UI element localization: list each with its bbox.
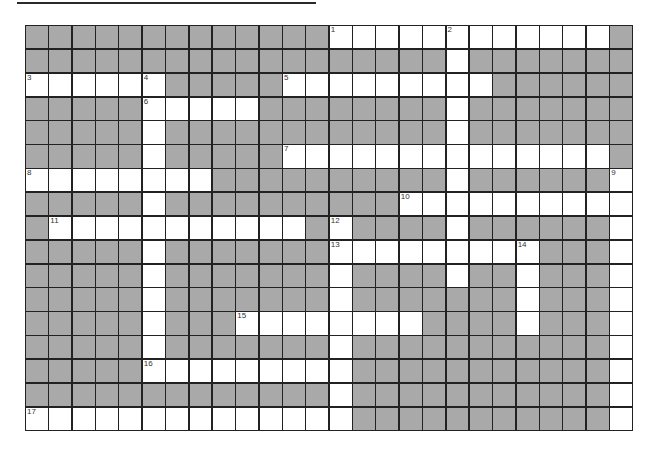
crossword-cell[interactable]: [96, 169, 118, 191]
crossword-cell[interactable]: [376, 26, 398, 48]
crossword-cell[interactable]: [306, 408, 328, 430]
crossword-cell[interactable]: [143, 193, 165, 215]
crossword-cell[interactable]: [190, 217, 212, 239]
crossword-cell[interactable]: [143, 265, 165, 287]
crossword-cell[interactable]: 10: [400, 193, 422, 215]
crossword-cell[interactable]: 13: [330, 241, 352, 263]
crossword-cell[interactable]: [400, 145, 422, 167]
crossword-cell[interactable]: [423, 74, 445, 96]
crossword-cell[interactable]: [610, 336, 632, 358]
crossword-cell[interactable]: [353, 312, 375, 334]
crossword-cell[interactable]: [143, 145, 165, 167]
crossword-cell[interactable]: [353, 241, 375, 263]
crossword-cell[interactable]: [400, 26, 422, 48]
crossword-cell[interactable]: [166, 169, 188, 191]
crossword-cell[interactable]: [143, 336, 165, 358]
crossword-cell[interactable]: [400, 74, 422, 96]
crossword-cell[interactable]: [470, 26, 492, 48]
crossword-cell[interactable]: 16: [143, 360, 165, 382]
crossword-cell[interactable]: [563, 145, 585, 167]
crossword-cell[interactable]: [283, 312, 305, 334]
crossword-cell[interactable]: [213, 360, 235, 382]
crossword-cell[interactable]: [447, 265, 469, 287]
crossword-cell[interactable]: [563, 26, 585, 48]
crossword-cell[interactable]: [610, 384, 632, 406]
crossword-cell[interactable]: [610, 312, 632, 334]
crossword-cell[interactable]: [610, 408, 632, 430]
crossword-cell[interactable]: [493, 241, 515, 263]
crossword-cell[interactable]: [610, 265, 632, 287]
crossword-cell[interactable]: [563, 193, 585, 215]
crossword-cell[interactable]: [166, 217, 188, 239]
crossword-cell[interactable]: [470, 193, 492, 215]
crossword-cell[interactable]: [236, 408, 258, 430]
crossword-cell[interactable]: [283, 217, 305, 239]
crossword-cell[interactable]: [517, 193, 539, 215]
crossword-cell[interactable]: [447, 193, 469, 215]
crossword-cell[interactable]: [213, 408, 235, 430]
crossword-cell[interactable]: [166, 360, 188, 382]
crossword-cell[interactable]: [376, 312, 398, 334]
crossword-cell[interactable]: [423, 193, 445, 215]
crossword-cell[interactable]: [610, 360, 632, 382]
crossword-cell[interactable]: [143, 169, 165, 191]
crossword-cell[interactable]: [330, 312, 352, 334]
crossword-cell[interactable]: [283, 360, 305, 382]
crossword-cell[interactable]: [447, 98, 469, 120]
crossword-cell[interactable]: [190, 98, 212, 120]
crossword-cell[interactable]: [330, 336, 352, 358]
crossword-cell[interactable]: 12: [330, 217, 352, 239]
crossword-cell[interactable]: [423, 26, 445, 48]
crossword-cell[interactable]: [236, 98, 258, 120]
crossword-cell[interactable]: [143, 217, 165, 239]
crossword-cell[interactable]: [260, 312, 282, 334]
crossword-cell[interactable]: [306, 145, 328, 167]
crossword-cell[interactable]: [143, 241, 165, 263]
crossword-cell[interactable]: [330, 288, 352, 310]
crossword-cell[interactable]: 6: [143, 98, 165, 120]
crossword-cell[interactable]: [587, 145, 609, 167]
crossword-cell[interactable]: 3: [26, 74, 48, 96]
crossword-cell[interactable]: 14: [517, 241, 539, 263]
crossword-cell[interactable]: [610, 241, 632, 263]
crossword-cell[interactable]: [330, 408, 352, 430]
crossword-cell[interactable]: [470, 145, 492, 167]
crossword-cell[interactable]: [517, 312, 539, 334]
crossword-cell[interactable]: [49, 169, 71, 191]
crossword-cell[interactable]: [306, 360, 328, 382]
crossword-cell[interactable]: [143, 121, 165, 143]
crossword-cell[interactable]: [143, 312, 165, 334]
crossword-cell[interactable]: [447, 50, 469, 72]
crossword-cell[interactable]: 15: [236, 312, 258, 334]
crossword-cell[interactable]: [540, 193, 562, 215]
crossword-cell[interactable]: [470, 74, 492, 96]
crossword-cell[interactable]: 1: [330, 26, 352, 48]
crossword-cell[interactable]: [119, 408, 141, 430]
crossword-cell[interactable]: [353, 145, 375, 167]
crossword-cell[interactable]: [447, 145, 469, 167]
crossword-cell[interactable]: [49, 74, 71, 96]
crossword-cell[interactable]: [73, 408, 95, 430]
crossword-cell[interactable]: [610, 217, 632, 239]
crossword-cell[interactable]: 7: [283, 145, 305, 167]
crossword-cell[interactable]: 8: [26, 169, 48, 191]
crossword-cell[interactable]: [190, 360, 212, 382]
crossword-cell[interactable]: [260, 217, 282, 239]
crossword-cell[interactable]: [540, 26, 562, 48]
crossword-cell[interactable]: [166, 98, 188, 120]
crossword-cell[interactable]: [213, 98, 235, 120]
crossword-cell[interactable]: [587, 193, 609, 215]
crossword-cell[interactable]: [260, 360, 282, 382]
crossword-cell[interactable]: [143, 288, 165, 310]
crossword-cell[interactable]: [96, 74, 118, 96]
crossword-cell[interactable]: [400, 312, 422, 334]
crossword-cell[interactable]: [447, 217, 469, 239]
crossword-cell[interactable]: [306, 312, 328, 334]
crossword-cell[interactable]: 17: [26, 408, 48, 430]
crossword-cell[interactable]: [470, 241, 492, 263]
crossword-cell[interactable]: [236, 217, 258, 239]
crossword-cell[interactable]: [73, 217, 95, 239]
crossword-cell[interactable]: [400, 241, 422, 263]
crossword-cell[interactable]: [213, 217, 235, 239]
crossword-cell[interactable]: [330, 360, 352, 382]
